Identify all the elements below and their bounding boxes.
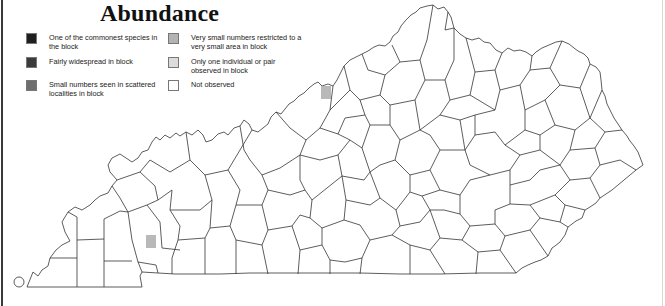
abundance-marker-southwest [146,235,156,248]
kentucky-county-map [0,0,665,306]
abundance-marker-north [321,86,331,99]
island-circle [14,277,24,287]
state-outline [27,5,643,287]
